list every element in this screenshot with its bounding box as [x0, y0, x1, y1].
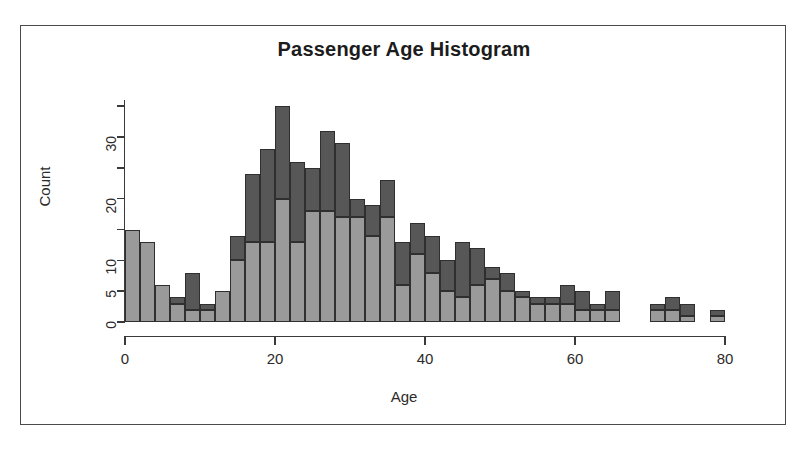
bar-segment-lower	[665, 310, 680, 322]
bar-segment-lower	[305, 211, 320, 322]
bar-segment-upper	[500, 273, 515, 292]
histogram-bar	[680, 304, 695, 323]
y-axis-tick-label: 20	[103, 198, 119, 214]
histogram-bar	[575, 291, 590, 322]
bar-segment-upper	[575, 291, 590, 310]
bar-segment-upper	[350, 199, 365, 218]
x-axis-tick-label: 80	[717, 350, 734, 367]
bar-segment-upper	[560, 285, 575, 304]
y-axis-title: Count	[36, 137, 53, 237]
histogram-bar	[305, 168, 320, 322]
y-axis-tick-label: 0	[103, 321, 119, 329]
bar-segment-upper	[665, 297, 680, 309]
bar-segment-upper	[380, 180, 395, 217]
bar-segment-upper	[485, 267, 500, 279]
histogram-bar	[500, 273, 515, 322]
bar-segment-lower	[275, 199, 290, 322]
x-axis-tick	[274, 336, 275, 345]
bar-segment-lower	[515, 297, 530, 322]
x-axis-tick-label: 20	[267, 350, 284, 367]
histogram-bar	[200, 304, 215, 323]
histogram-bar	[530, 297, 545, 322]
y-axis-tick-label: 10	[103, 259, 119, 275]
bar-segment-upper	[395, 242, 410, 285]
bar-segment-upper	[605, 291, 620, 310]
bar-segment-upper	[425, 236, 440, 273]
histogram-bar	[260, 149, 275, 322]
bar-segment-lower	[320, 211, 335, 322]
bar-segment-lower	[230, 260, 245, 322]
x-axis-tick-label: 40	[417, 350, 434, 367]
bar-segment-lower	[440, 291, 455, 322]
x-axis-tick-label: 0	[121, 350, 129, 367]
bar-segment-lower	[365, 236, 380, 322]
bar-segment-upper	[365, 205, 380, 236]
bar-segment-lower	[485, 279, 500, 322]
histogram-bar	[665, 297, 680, 322]
histogram-bar	[215, 291, 230, 322]
x-axis: 020406080	[125, 336, 725, 350]
bar-segment-lower	[470, 285, 485, 322]
bar-segment-upper	[470, 248, 485, 285]
histogram-bar	[350, 199, 365, 322]
bar-segment-lower	[560, 304, 575, 323]
y-axis-tick	[117, 105, 125, 106]
bar-segment-lower	[155, 285, 170, 322]
bar-segment-upper	[290, 162, 305, 242]
y-axis-tick	[117, 229, 125, 230]
y-axis-tick	[117, 167, 125, 168]
bar-segment-lower	[530, 304, 545, 323]
histogram-bar	[410, 223, 425, 322]
histogram-bar	[140, 242, 155, 322]
x-axis-tick	[724, 336, 725, 345]
bar-segment-upper	[680, 304, 695, 316]
y-axis-line	[124, 100, 125, 322]
histogram-bar	[395, 242, 410, 322]
x-axis-tick-label: 60	[567, 350, 584, 367]
histogram-bar	[245, 174, 260, 322]
histogram-bar	[290, 162, 305, 322]
bar-segment-lower	[350, 217, 365, 322]
histogram-bar	[185, 273, 200, 322]
bar-segment-lower	[140, 242, 155, 322]
bar-segment-lower	[260, 242, 275, 322]
bar-segment-lower	[590, 310, 605, 322]
bar-segment-lower	[395, 285, 410, 322]
y-axis: 05102030	[113, 100, 125, 322]
bar-segment-lower	[425, 273, 440, 322]
bar-segment-lower	[545, 304, 560, 323]
bar-segment-upper	[185, 273, 200, 310]
histogram-bar	[230, 236, 245, 322]
histogram-bar	[590, 304, 605, 323]
histogram-bar	[155, 285, 170, 322]
bar-segment-upper	[245, 174, 260, 242]
bar-segment-upper	[455, 242, 470, 298]
bar-segment-upper	[410, 223, 425, 254]
y-axis-tick-label: 5	[103, 290, 119, 298]
histogram-bar	[605, 291, 620, 322]
histogram-bar	[275, 106, 290, 322]
x-axis-tick	[124, 336, 125, 345]
bar-segment-lower	[245, 242, 260, 322]
histogram-bar	[380, 180, 395, 322]
histogram-bar	[170, 297, 185, 322]
bar-segment-lower	[650, 310, 665, 322]
histogram-bar	[515, 291, 530, 322]
histogram-bar	[650, 304, 665, 323]
histogram-bar	[485, 267, 500, 323]
bar-segment-upper	[320, 131, 335, 211]
bar-segment-lower	[410, 254, 425, 322]
x-axis-title: Age	[0, 388, 808, 405]
histogram-bars	[125, 100, 725, 322]
histogram-bar	[455, 242, 470, 322]
histogram-bar	[470, 248, 485, 322]
plot-area	[125, 100, 725, 322]
histogram-bar	[125, 230, 140, 323]
bar-segment-lower	[335, 217, 350, 322]
bar-segment-lower	[185, 310, 200, 322]
bar-segment-lower	[200, 310, 215, 322]
bar-segment-lower	[290, 242, 305, 322]
bar-segment-lower	[215, 291, 230, 322]
bar-segment-lower	[680, 316, 695, 322]
histogram-bar	[545, 297, 560, 322]
